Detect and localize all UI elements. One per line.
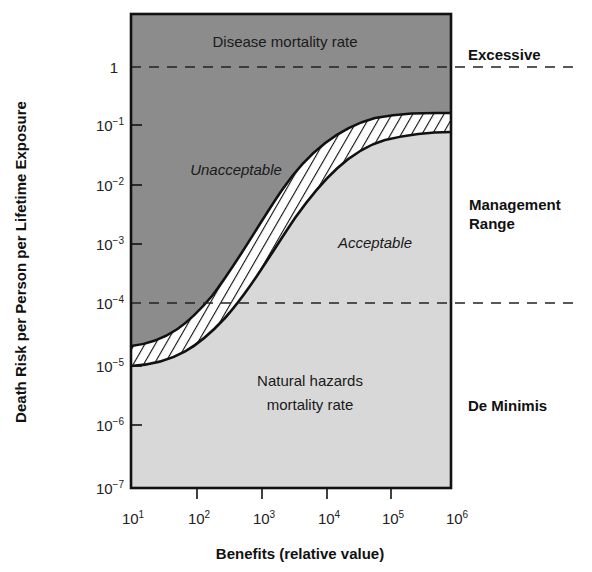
x-tick-label: 102 [188,509,211,527]
x-axis-title: Benefits (relative value) [216,545,384,562]
y-tick-label: 10−2 [96,176,125,194]
x-tick-label: 106 [446,509,469,527]
unacceptable-label: Unacceptable [190,161,282,178]
y-tick-label: 10−1 [96,116,125,134]
y-tick-label: 10−4 [96,294,125,312]
natural-hazards-label-line1: Natural hazards [257,372,363,389]
y-tick-label: 10−5 [96,357,125,375]
y-tick-label: 10−3 [96,235,125,253]
disease-mortality-label: Disease mortality rate [212,33,357,50]
y-tick-label: 10−6 [96,416,125,434]
y-axis-title: Death Risk per Person per Lifetime Expos… [12,101,29,423]
zone-management-label-line1: Management [469,196,561,213]
natural-hazards-label-line2: mortality rate [267,396,354,413]
acceptable-label: Acceptable [337,234,412,251]
y-axis-labels: 1 10−1 10−2 10−3 10−4 10−5 10−6 10−7 [96,59,125,497]
y-tick-label: 1 [110,59,118,76]
x-tick-label: 103 [253,509,276,527]
plot-area [131,14,451,488]
x-tick-label: 104 [318,509,341,527]
x-axis-ticks [197,488,391,499]
x-axis-labels: 101 102 103 104 105 106 [122,509,469,527]
risk-benefit-chart: 1 10−1 10−2 10−3 10−4 10−5 10−6 10−7 101… [0,0,592,572]
x-tick-label: 101 [122,509,145,527]
x-tick-label: 105 [382,509,405,527]
y-tick-label: 10−7 [96,479,125,497]
zone-management-label-line2: Range [469,215,515,232]
zone-excessive-label: Excessive [468,46,541,63]
zone-de-minimis-label: De Minimis [468,397,547,414]
